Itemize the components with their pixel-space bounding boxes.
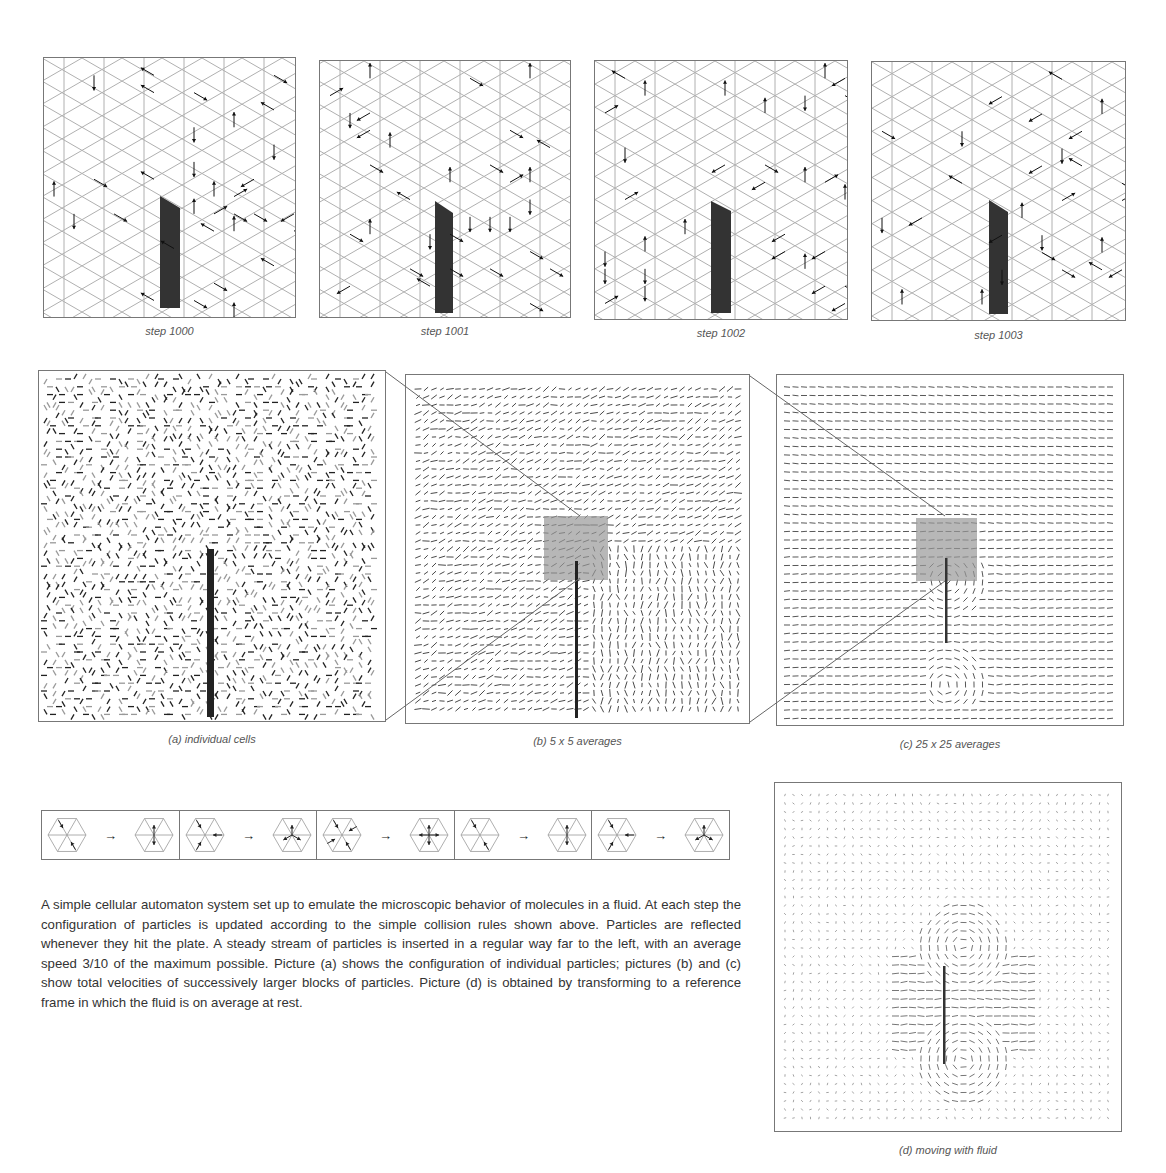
svg-text:→: →	[242, 828, 255, 843]
panel-d-moving-with-fluid	[774, 782, 1122, 1132]
svg-text:→: →	[379, 828, 392, 843]
lattice-gas-diagram	[595, 61, 848, 320]
svg-text:→: →	[517, 828, 530, 843]
panel-b-5x5-averages	[405, 374, 750, 724]
step-caption-1001: step 1001	[319, 325, 571, 337]
svg-text:→: →	[104, 828, 117, 843]
panel-a-individual-cells	[38, 370, 386, 722]
collision-rule: →	[455, 811, 593, 859]
collision-rule: →	[180, 811, 318, 859]
svg-text:→: →	[654, 828, 667, 843]
step-panel-1002	[594, 60, 848, 320]
collision-rule: →	[317, 811, 455, 859]
lattice-gas-diagram	[44, 58, 296, 318]
step-caption-1003: step 1003	[871, 329, 1126, 341]
step-panel-1001	[319, 60, 571, 318]
collision-rule: →	[42, 811, 180, 859]
collision-rules-strip: → → → → →	[41, 810, 730, 860]
caption-b: (b) 5 x 5 averages	[405, 735, 750, 747]
lattice-gas-diagram	[872, 62, 1126, 321]
panel-c-25x25-averages	[776, 374, 1124, 726]
caption-d: (d) moving with fluid	[774, 1144, 1122, 1156]
caption-c: (c) 25 x 25 averages	[776, 738, 1124, 750]
step-panel-1000	[43, 57, 296, 318]
figure-description: A simple cellular automaton system set u…	[41, 895, 741, 1012]
step-caption-1002: step 1002	[594, 327, 848, 339]
step-caption-1000: step 1000	[43, 325, 296, 337]
caption-a: (a) individual cells	[38, 733, 386, 745]
collision-rule: →	[592, 811, 729, 859]
lattice-gas-diagram	[320, 61, 571, 318]
step-panel-1003	[871, 61, 1126, 321]
